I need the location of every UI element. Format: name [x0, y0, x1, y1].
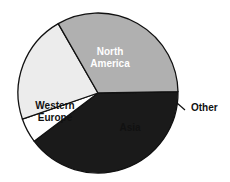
- pie-slices: [18, 13, 178, 173]
- label-western-europe: WesternEurope: [35, 100, 74, 123]
- other-leader-line: [177, 103, 185, 110]
- pie-chart: NorthAmericaOtherAsiaWesternEurope: [0, 0, 230, 182]
- label-other: Other: [191, 102, 218, 113]
- label-asia: Asia: [119, 122, 141, 133]
